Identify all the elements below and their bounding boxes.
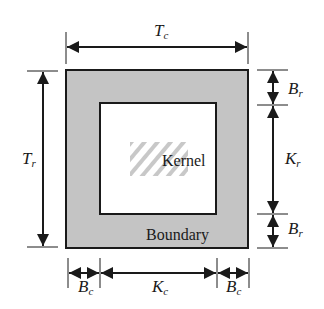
kc-label: Kc bbox=[151, 277, 168, 297]
boundary-label: Boundary bbox=[146, 226, 209, 244]
br-top-label: Br bbox=[288, 79, 303, 99]
kr-label: Kr bbox=[284, 149, 301, 169]
tc-label: Tc bbox=[154, 21, 168, 41]
tr-label: Tr bbox=[22, 149, 36, 169]
kernel-label: Kernel bbox=[162, 152, 206, 169]
br-bottom-label: Br bbox=[288, 219, 303, 239]
bc-left-label: Bc bbox=[78, 277, 93, 297]
tile-diagram: Kernel Boundary Tc Tr Br Kr Br Bc Kc Bc bbox=[0, 0, 324, 309]
bc-right-label: Bc bbox=[226, 277, 241, 297]
